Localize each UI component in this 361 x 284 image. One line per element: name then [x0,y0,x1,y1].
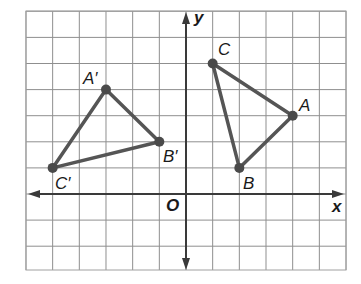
coordinate-plane: C A B A′ B′ C′ x y O [0,0,361,284]
vertex-dot [48,163,58,173]
x-axis-label: x [331,197,343,216]
y-axis-up-arrow-icon [182,12,190,24]
label-b: B [243,174,254,193]
vertex-dot [288,111,298,121]
label-a-prime: A′ [82,69,98,88]
label-a: A [298,96,310,115]
vertex-dot [234,163,244,173]
origin-label: O [166,196,179,215]
y-axis-down-arrow-icon [182,258,190,270]
y-axis-label: y [193,8,205,27]
label-c-prime: C′ [55,174,71,193]
vertex-dot [154,137,164,147]
y-axis [182,12,190,270]
label-b-prime: B′ [163,147,178,166]
vertex-dot [101,85,111,95]
vertex-dot [208,59,218,69]
label-c: C [218,40,231,59]
x-axis-left-arrow-icon [28,190,40,198]
